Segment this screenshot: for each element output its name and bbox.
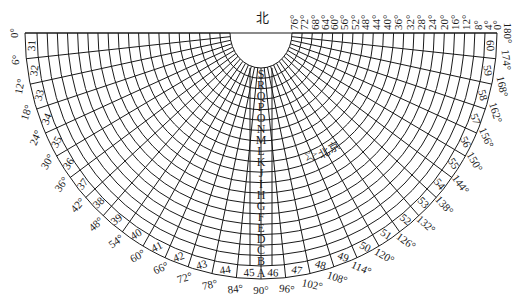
longitude-degree-label: 108° — [326, 268, 350, 286]
longitude-degree-label: 162° — [487, 101, 505, 125]
ring-number: 38 — [90, 194, 107, 211]
longitude-degree-label: 144° — [450, 172, 472, 196]
longitude-degree-label: 96° — [279, 282, 296, 296]
meridian-line — [236, 68, 257, 278]
longitude-degree-label: 24° — [27, 128, 44, 147]
grid-labels: SRQPONMLKJIHGFEDCBA313233343536373839404… — [8, 15, 514, 296]
latitude-degree-label: 12° — [460, 15, 472, 30]
meridian-line — [288, 51, 466, 157]
ring-number: 35 — [48, 134, 64, 150]
polar-grid-svg: SRQPONMLKJIHGFEDCBA313233343536373839404… — [0, 0, 522, 305]
ring-number: 57 — [468, 112, 483, 127]
ring-number: 56 — [458, 134, 474, 150]
longitude-degree-label: 90° — [253, 284, 268, 296]
ring-number: 51 — [378, 226, 394, 242]
ring-number: 60 — [484, 40, 497, 52]
ring-number: 32 — [27, 64, 41, 77]
meridian-line — [264, 68, 285, 278]
longitude-degree-label: 48° — [86, 214, 105, 233]
longitude-degree-label: 132° — [414, 213, 438, 236]
star-icon: ☆ — [303, 146, 318, 165]
longitude-degree-label: 126° — [394, 230, 418, 252]
ring-number: 45 — [243, 266, 255, 279]
ring-number: 34 — [39, 111, 54, 126]
ring-number: 55 — [446, 156, 462, 172]
longitude-degree-label: 66° — [151, 259, 170, 276]
north-label: 北 — [256, 10, 269, 25]
ring-number: 40 — [128, 226, 144, 242]
latitude-degree-label: 36° — [392, 15, 404, 30]
longitude-degree-label: 168° — [495, 75, 511, 98]
polar-grid-diagram: SRQPONMLKJIHGFEDCBA313233343536373839404… — [0, 0, 522, 305]
longitude-degree-label: 54° — [106, 232, 126, 251]
ring-letter: A — [257, 266, 266, 280]
ring-number: 59 — [481, 64, 495, 77]
ring-number: 37 — [74, 175, 91, 191]
longitude-degree-label: 120° — [372, 245, 396, 266]
ring-number: 36 — [60, 155, 76, 171]
longitude-degree-label: 36° — [52, 174, 71, 194]
longitude-degree-label: 0° — [8, 28, 20, 38]
ring-number: 46 — [267, 266, 279, 279]
longitude-degree-label: 60° — [128, 247, 147, 265]
meridian-line — [165, 65, 248, 258]
longitude-degree-label: 150° — [464, 149, 485, 173]
longitude-degree-label: 42° — [68, 195, 87, 214]
ring-number: 41 — [149, 239, 164, 255]
latitude-degree-label: 0° — [491, 20, 503, 30]
ring-number: 52 — [398, 211, 414, 227]
longitude-degree-label: 30° — [38, 152, 56, 171]
ring-number: 50 — [358, 239, 374, 255]
meridian-line — [143, 63, 246, 246]
longitude-degree-label: 180° — [502, 23, 514, 44]
ring-number: 53 — [416, 194, 433, 211]
ring-number: 44 — [219, 263, 232, 277]
meridian-line — [57, 51, 235, 157]
longitude-degree-label: 12° — [12, 78, 27, 96]
longitude-degree-label: 72° — [175, 269, 193, 285]
longitude-degree-label: 84° — [227, 282, 244, 296]
ring-number: 47 — [291, 263, 304, 277]
longitude-degree-label: 6° — [9, 54, 22, 65]
longitude-degree-label: 156° — [477, 126, 496, 150]
beijing-label: 北京 — [316, 138, 342, 160]
longitude-degree-label: 18° — [18, 103, 34, 121]
longitude-degree-label: 114° — [350, 258, 374, 277]
longitude-degree-label: 174° — [500, 49, 514, 71]
longitude-degree-label: 78° — [201, 277, 219, 292]
ring-number: 39 — [108, 211, 124, 228]
pole-hole-arc — [230, 33, 292, 68]
latitude-degree-label: 24° — [426, 15, 438, 30]
ring-number: 54 — [432, 176, 449, 192]
longitude-degree-label: 102° — [301, 276, 324, 292]
ring-number: 31 — [25, 40, 38, 52]
